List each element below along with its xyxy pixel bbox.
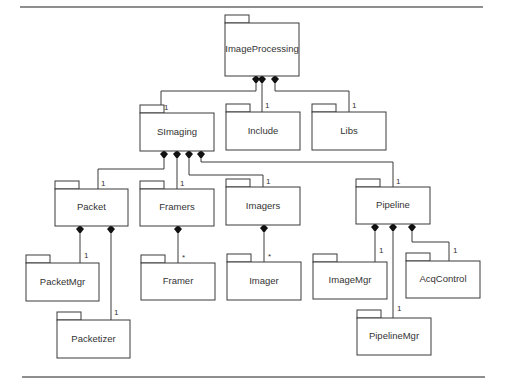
package-label: Packetizer xyxy=(71,333,115,344)
package-tab xyxy=(141,255,165,263)
multiplicity-label: 1 xyxy=(265,101,270,110)
composition-framers-framer: * xyxy=(174,225,185,263)
package-tab xyxy=(55,181,79,189)
composition-packet-packetizer: 1 xyxy=(107,225,119,320)
package-label: ImageProcessing xyxy=(225,43,298,54)
package-simaging[interactable]: SImaging xyxy=(140,105,214,151)
package-tab xyxy=(140,181,164,189)
package-tab xyxy=(226,179,250,187)
package-label: Framer xyxy=(163,275,194,286)
multiplicity-label: * xyxy=(182,253,185,262)
package-label: PipelineMgr xyxy=(369,330,419,341)
multiplicity-label: * xyxy=(268,252,271,261)
package-diagram: 111111111**111 ImageProcessingSImagingIn… xyxy=(0,0,508,385)
multiplicity-label: 1 xyxy=(84,251,89,260)
package-imageprocessing[interactable]: ImageProcessing xyxy=(225,15,299,76)
multiplicity-label: 1 xyxy=(101,179,106,188)
composition-simaging-framers: 1 xyxy=(173,150,185,189)
package-packetmgr[interactable]: PacketMgr xyxy=(26,255,99,301)
package-label: Framers xyxy=(159,201,195,212)
composition-packet-packetmgr: 1 xyxy=(76,225,89,263)
multiplicity-label: 1 xyxy=(180,179,185,188)
package-tab xyxy=(226,104,250,112)
package-label: Include xyxy=(248,125,279,136)
package-label: Imagers xyxy=(246,200,281,211)
composition-imagers-imager: * xyxy=(260,224,271,262)
composition-pipeline-imagemgr: 1 xyxy=(371,223,384,262)
package-tab xyxy=(57,312,81,320)
package-tab xyxy=(227,254,251,262)
composition-pipeline-pipelinemgr: 1 xyxy=(389,223,402,318)
package-label: ImageMgr xyxy=(329,274,372,285)
package-tab xyxy=(406,253,430,261)
package-label: Imager xyxy=(249,275,279,286)
package-tab xyxy=(312,104,336,112)
packages: ImageProcessingSImagingIncludeLibsPacket… xyxy=(26,15,480,358)
package-packetizer[interactable]: Packetizer xyxy=(57,312,130,358)
package-label: Packet xyxy=(77,201,106,212)
package-acqcontrol[interactable]: AcqControl xyxy=(406,253,480,298)
multiplicity-label: 1 xyxy=(114,308,119,317)
package-tab xyxy=(357,310,381,318)
package-label: AcqControl xyxy=(420,273,467,284)
package-label: Libs xyxy=(340,125,358,136)
package-label: PacketMgr xyxy=(40,276,85,287)
package-tab xyxy=(140,105,164,113)
package-pipelinemgr[interactable]: PipelineMgr xyxy=(357,310,431,355)
package-packet[interactable]: Packet xyxy=(55,181,128,226)
multiplicity-label: 1 xyxy=(164,103,169,112)
multiplicity-label: 1 xyxy=(379,246,384,255)
multiplicity-label: 1 xyxy=(397,304,402,313)
package-label: Pipeline xyxy=(376,199,410,210)
package-tab xyxy=(313,254,337,262)
package-imagemgr[interactable]: ImageMgr xyxy=(313,254,387,299)
package-label: SImaging xyxy=(157,126,197,137)
composition-imageprocessing-include: 1 xyxy=(258,75,270,112)
package-tab xyxy=(26,255,50,263)
multiplicity-label: 1 xyxy=(352,101,357,110)
package-include[interactable]: Include xyxy=(226,104,300,150)
multiplicity-label: 1 xyxy=(396,177,401,186)
package-tab xyxy=(225,15,249,23)
package-tab xyxy=(356,179,380,187)
multiplicity-label: 1 xyxy=(266,177,271,186)
multiplicity-label: 1 xyxy=(453,246,458,255)
